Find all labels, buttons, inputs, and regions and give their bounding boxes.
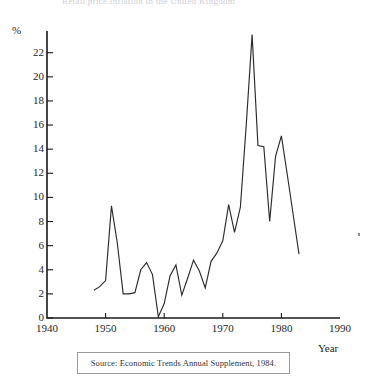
source-caption-text: Source: Economic Trends Annual Supplemen… xyxy=(91,358,276,368)
scan-speck-artifact xyxy=(358,233,360,236)
plot-canvas xyxy=(0,0,377,380)
data-series-inflation xyxy=(94,35,299,317)
source-caption-box: Source: Economic Trends Annual Supplemen… xyxy=(77,352,290,374)
axis-lines xyxy=(47,31,340,318)
y-axis-ticks xyxy=(47,53,53,318)
chart-figure: Retail price inflation in the United Kin… xyxy=(0,0,377,380)
